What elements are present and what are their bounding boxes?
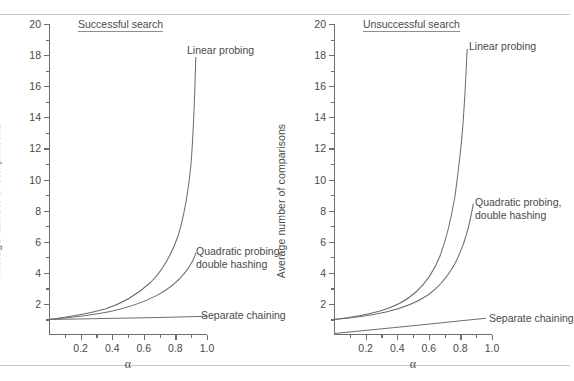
- x-tick-right: [492, 335, 493, 340]
- x-tick-left: [128, 335, 129, 338]
- y-tick-label-left: 4: [35, 267, 41, 279]
- x-tick-label-right: 0.8: [453, 342, 468, 354]
- y-axis-label-right-text: Average number of comparisons: [275, 106, 287, 296]
- x-tick-left: [144, 335, 145, 340]
- x-tick-label-right: 0.2: [358, 342, 373, 354]
- x-tick-label-left: 0.2: [73, 342, 88, 354]
- x-tick-right: [476, 335, 477, 338]
- x-tick-label-right: 0.4: [390, 342, 405, 354]
- y-tick-label-left: 12: [29, 142, 41, 154]
- x-tick-right: [381, 335, 382, 338]
- y-tick-label-left: 8: [35, 205, 41, 217]
- x-tick-label-left: 0.4: [105, 342, 120, 354]
- curve-quadratic-probing-right: [334, 204, 473, 320]
- annotation-linear-probing-right: Linear probing: [469, 40, 536, 53]
- x-tick-right: [429, 335, 430, 340]
- annotation-quadratic-probing-left: Quadratic probing, double hashing: [196, 245, 282, 270]
- annotation-quadratic-probing-right-line2: double hashing: [475, 209, 561, 222]
- y-tick-label-left: 10: [29, 174, 41, 186]
- annotation-linear-probing-left: Linear probing: [187, 44, 254, 57]
- annotation-quadratic-probing-left-line2: double hashing: [196, 258, 282, 271]
- y-tick-label-left: 6: [35, 236, 41, 248]
- y-tick-label-right: 4: [320, 267, 326, 279]
- y-tick-label-left: 14: [29, 111, 41, 123]
- y-tick-label-left: 2: [35, 298, 41, 310]
- curves-left: [49, 24, 207, 335]
- bottom-rule: [0, 365, 570, 366]
- y-axis-label-left-text: Average number of comparisons: [0, 106, 2, 296]
- x-tick-right: [397, 335, 398, 340]
- annotation-quadratic-probing-right: Quadratic probing, double hashing: [475, 196, 561, 221]
- annotation-quadratic-probing-right-line1: Quadratic probing,: [475, 196, 561, 209]
- panel-successful-search: Average number of comparisons Successful…: [0, 18, 285, 358]
- x-axis-label-left: α: [125, 357, 131, 372]
- x-tick-label-right: 1.0: [485, 342, 500, 354]
- y-tick-label-right: 16: [314, 80, 326, 92]
- x-tick-label-left: 1.0: [200, 342, 215, 354]
- y-axis-label-right: Average number of comparisons: [287, 0, 299, 106]
- plot-area-left: 2468101214161820 0.20.40.60.81.0 Linear …: [49, 24, 207, 335]
- panel-unsuccessful-search: Average number of comparisons Unsuccessf…: [285, 18, 570, 358]
- y-tick-label-right: 20: [314, 18, 326, 30]
- x-tick-right: [413, 335, 414, 338]
- annotation-separate-chaining-left: Separate chaining: [201, 309, 286, 322]
- y-tick-label-right: 14: [314, 111, 326, 123]
- x-tick-label-left: 0.8: [168, 342, 183, 354]
- y-tick-label-left: 18: [29, 49, 41, 61]
- y-axis-label-left: Average number of comparisons: [2, 0, 14, 106]
- x-tick-left: [65, 335, 66, 338]
- x-tick-left: [175, 335, 176, 340]
- y-tick-label-right: 10: [314, 174, 326, 186]
- x-tick-label-right: 0.6: [421, 342, 436, 354]
- x-tick-right: [366, 335, 367, 340]
- curve-linear-probing-left: [49, 57, 196, 319]
- curve-separate-chaining-right: [334, 318, 486, 333]
- x-tick-left: [112, 335, 113, 340]
- y-tick-label-right: 8: [320, 205, 326, 217]
- curve-quadratic-probing-left: [49, 253, 196, 320]
- x-tick-left: [191, 335, 192, 338]
- y-tick-label-left: 16: [29, 80, 41, 92]
- y-tick-label-left: 20: [29, 18, 41, 30]
- y-tick-label-right: 18: [314, 49, 326, 61]
- x-axis-label-right: α: [410, 357, 416, 372]
- annotation-separate-chaining-right: Separate chaining: [489, 312, 574, 325]
- y-tick-label-right: 6: [320, 236, 326, 248]
- top-rule: [0, 14, 570, 15]
- y-tick-label-right: 12: [314, 142, 326, 154]
- x-tick-left: [81, 335, 82, 340]
- x-tick-left: [207, 335, 208, 340]
- y-tick-label-right: 2: [320, 298, 326, 310]
- x-tick-right: [460, 335, 461, 340]
- x-tick-left: [160, 335, 161, 338]
- plot-area-right: 2468101214161820 0.20.40.60.81.0 Linear …: [334, 24, 492, 335]
- x-tick-right: [350, 335, 351, 338]
- x-tick-label-left: 0.6: [136, 342, 151, 354]
- x-tick-left: [96, 335, 97, 338]
- annotation-quadratic-probing-left-line1: Quadratic probing,: [196, 245, 282, 258]
- curve-linear-probing-right: [334, 49, 467, 319]
- curves-right: [334, 24, 492, 335]
- running-head: [150, 0, 570, 8]
- x-tick-right: [445, 335, 446, 338]
